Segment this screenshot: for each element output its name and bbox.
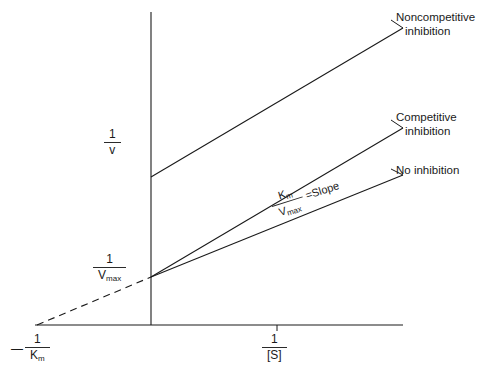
x-intercept-subscript: m: [38, 354, 45, 363]
series-label-noncompetitive-line1: Noncompetitive: [396, 11, 475, 23]
slope-numerator-subscript: m: [285, 190, 294, 201]
x-axis-label-denominator: [S]: [262, 348, 287, 362]
lineweaver-burk-figure: 1 v 1 Vmax — 1 Km 1 [S] Km Vmax =Slope: [0, 0, 484, 369]
series-label-competitive-inhibition: Competitive inhibition: [396, 110, 457, 139]
series-label-noncompetitive-line2: inhibition: [396, 24, 475, 38]
y-intercept-label: 1 Vmax: [93, 253, 126, 282]
y-intercept-subscript: max: [106, 274, 121, 283]
series-label-no-inhibition: No inhibition: [396, 163, 459, 177]
y-axis-label: 1 v: [104, 128, 121, 157]
line-noncompetitive-inhibition: [151, 28, 403, 177]
series-label-competitive-line2: inhibition: [396, 124, 457, 138]
slope-equals-label: =Slope: [304, 180, 341, 202]
series-label-competitive-line1: Competitive: [396, 111, 457, 123]
y-intercept-denominator: Vmax: [93, 268, 126, 282]
x-intercept-label: — 1 Km: [11, 333, 50, 362]
y-axis-label-numerator: 1: [104, 128, 121, 143]
line-no-inhibition-extrapolation: [37, 277, 151, 325]
plot-canvas: [0, 0, 484, 369]
y-intercept-numerator: 1: [93, 253, 126, 268]
x-axis-label-numerator: 1: [262, 333, 287, 348]
series-label-no-inhibition-line1: No inhibition: [396, 164, 459, 176]
x-intercept-denominator: Km: [25, 348, 50, 362]
x-axis-label: 1 [S]: [262, 333, 287, 362]
minus-sign: —: [11, 342, 25, 357]
x-intercept-numerator: 1: [25, 333, 50, 348]
series-label-noncompetitive-inhibition: Noncompetitive inhibition: [396, 10, 475, 39]
y-axis-label-denominator: v: [104, 143, 121, 157]
